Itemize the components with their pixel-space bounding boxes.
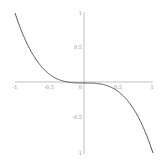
y-tick-label: 0.5 (74, 44, 82, 50)
chart-container: -1 -0.5 0 0.5 1 1 0.5 -0.5 -1 (0, 0, 163, 164)
x-tick-label: -1 (13, 84, 18, 90)
y-tick-label: 1 (79, 10, 82, 16)
y-tick-label: -0.5 (72, 114, 82, 120)
x-tick-label: 1 (150, 84, 153, 90)
x-tick-label: -0.5 (44, 84, 54, 90)
cubic-plot: -1 -0.5 0 0.5 1 1 0.5 -0.5 -1 (0, 0, 163, 164)
x-tick-label: 0 (79, 84, 82, 90)
y-tick-label: -1 (77, 150, 82, 156)
